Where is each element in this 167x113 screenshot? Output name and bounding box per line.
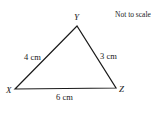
side-label-xy: 4 cm	[24, 52, 41, 62]
vertex-label-z: Z	[119, 84, 125, 94]
triangle-diagram: Y X Z 4 cm 3 cm 6 cm Not to scale	[0, 0, 167, 113]
side-label-xz: 6 cm	[56, 92, 73, 102]
not-to-scale-note: Not to scale	[115, 10, 151, 19]
vertex-label-x: X	[5, 85, 12, 95]
vertex-label-y: Y	[74, 12, 80, 22]
side-label-yz: 3 cm	[100, 51, 117, 61]
